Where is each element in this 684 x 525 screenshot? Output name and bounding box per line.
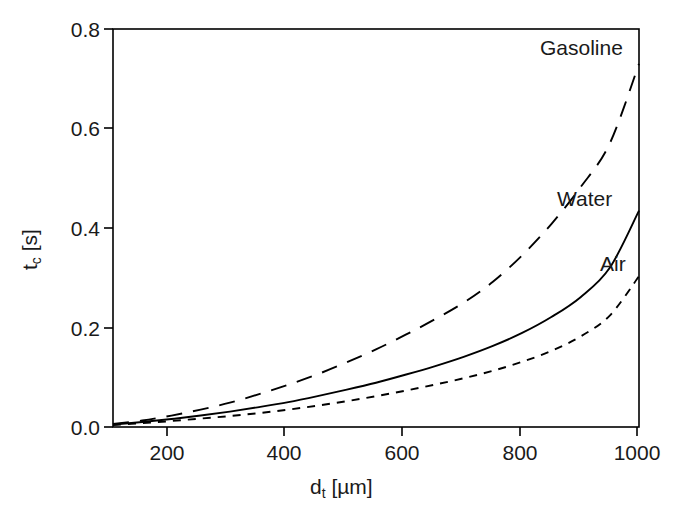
x-tick-label-0: 200 [127,441,207,465]
plot-frame-box [113,29,639,427]
curve-air [113,276,639,425]
series-label-air: Air [600,252,626,276]
y-tick-label-3: 0.2 [42,317,100,341]
plot-frame [113,29,639,427]
curve-water [113,211,639,425]
y-tick-label-1: 0.6 [42,117,100,141]
y-tick-label-0: 0.8 [42,18,100,42]
y-axis-title: tc [s] [18,229,44,270]
x-axis-title-unit: [µm] [326,475,373,498]
axis-ticks [104,29,637,436]
x-tick-label-2: 600 [362,441,442,465]
curve-gasoline [113,64,639,424]
y-axis-title-subscript: c [28,257,44,264]
y-tick-label-4: 0.0 [42,416,100,440]
x-tick-label-4: 1000 [597,441,677,465]
series-label-water: Water [557,187,612,211]
y-axis-title-unit: [s] [18,229,41,257]
data-curves [113,64,639,425]
chart-figure: 0.8 0.6 0.4 0.2 0.0 200 400 600 800 1000… [0,0,684,525]
chart-plot-area [0,0,684,525]
y-axis-title-symbol: t [18,264,41,270]
x-axis-title-symbol: d [310,475,322,498]
x-tick-label-3: 800 [480,441,560,465]
series-label-gasoline: Gasoline [540,36,623,60]
y-tick-label-2: 0.4 [42,217,100,241]
x-axis-title: dt [µm] [310,475,373,501]
x-tick-label-1: 400 [244,441,324,465]
